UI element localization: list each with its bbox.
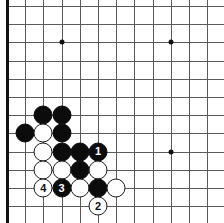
- white-stone-a: [34, 124, 53, 143]
- white-stone-g: [107, 179, 126, 198]
- white-stone-f: [70, 179, 89, 198]
- grid-line-vertical: [25, 0, 26, 223]
- move-number-label: 4: [40, 182, 46, 193]
- move-number-label: 1: [95, 146, 101, 157]
- white-stone-b: [34, 142, 53, 161]
- white-stone-d: [52, 160, 71, 179]
- white-stone-e: [89, 160, 108, 179]
- grid-line-vertical: [134, 0, 135, 223]
- board-edge-left: [6, 0, 9, 223]
- black-stone-f: [70, 142, 89, 161]
- white-move-2: 2: [89, 197, 108, 216]
- grid-line-vertical: [207, 0, 208, 223]
- white-stone-c: [34, 160, 53, 179]
- black-stone-g: [70, 160, 89, 179]
- black-stone-c: [16, 124, 35, 143]
- grid-line-vertical: [189, 0, 190, 223]
- black-stone-h: [89, 179, 108, 198]
- star-point-right-icon: [168, 149, 173, 154]
- star-point-top-left-icon: [59, 40, 64, 45]
- black-stone-b: [52, 106, 71, 125]
- black-stone-a: [34, 106, 53, 125]
- black-stone-e: [52, 142, 71, 161]
- grid-line-vertical: [171, 0, 172, 223]
- go-board-diagram: 1432: [0, 0, 224, 223]
- grid-line-vertical: [153, 0, 154, 223]
- white-move-4: 4: [34, 179, 53, 198]
- black-move-3: 3: [52, 179, 71, 198]
- black-move-1: 1: [89, 142, 108, 161]
- black-stone-d: [52, 124, 71, 143]
- move-number-label: 3: [59, 182, 65, 193]
- move-number-label: 2: [95, 200, 101, 211]
- star-point-top-right-icon: [168, 40, 173, 45]
